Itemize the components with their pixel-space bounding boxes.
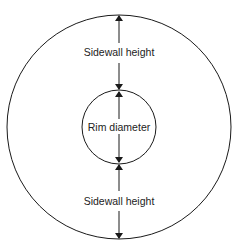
rim-diameter-label: Rim diameter [88,121,151,133]
sidewall-top-label: Sidewall height [84,46,155,58]
tire-diagram: Sidewall height Rim diameter Sidewall he… [0,0,232,247]
sidewall-bottom-label: Sidewall height [84,195,155,207]
